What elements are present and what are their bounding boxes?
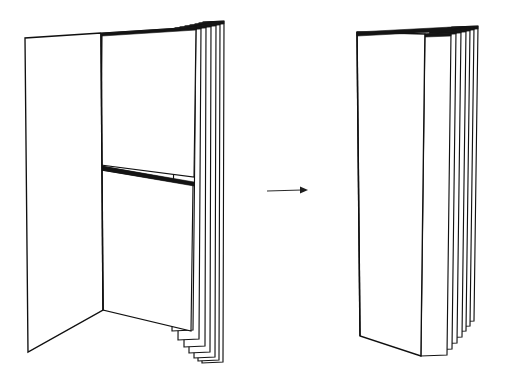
right-page-edge-1	[421, 33, 451, 356]
right-figure-folded-booklet	[0, 0, 513, 382]
right-page-stack	[421, 26, 478, 356]
diagram-canvas: Folded booklet transformation diagram	[0, 0, 513, 382]
